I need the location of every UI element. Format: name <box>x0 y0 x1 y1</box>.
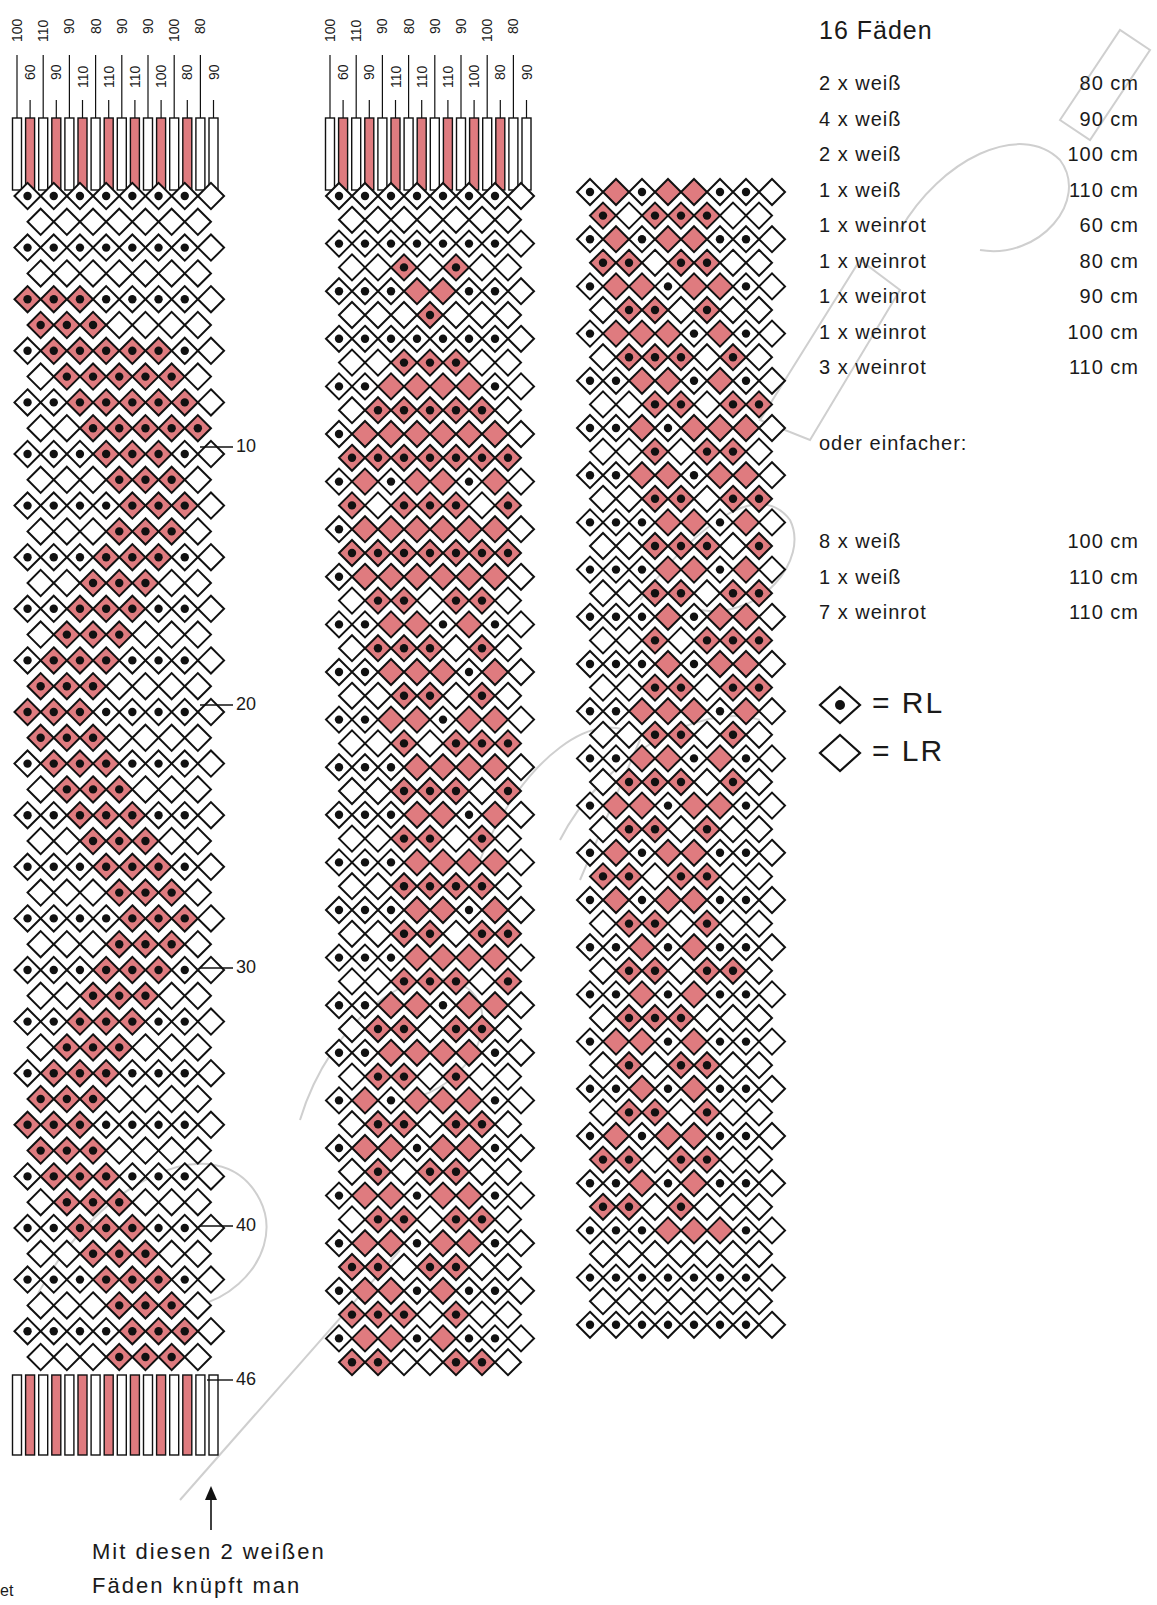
cut-off-text: et <box>0 1582 13 1600</box>
arrow-up-icon <box>0 0 1157 1605</box>
arrow-note: Mit diesen 2 weißen Fäden knüpft man <box>92 1535 326 1603</box>
arrow-note-line-2: Fäden knüpft man <box>92 1569 326 1603</box>
arrow-note-line-1: Mit diesen 2 weißen <box>92 1535 326 1569</box>
